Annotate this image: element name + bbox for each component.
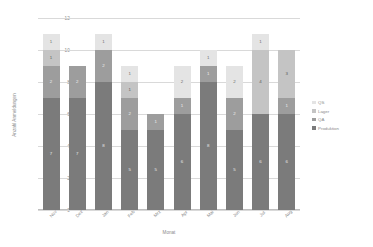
bar-segment[interactable]: 1 (95, 34, 112, 50)
bar-segment-value: 1 (259, 40, 261, 44)
bar-column[interactable]: 316 (278, 18, 295, 210)
bar-segment-value: 2 (233, 112, 235, 116)
bar-column[interactable]: 216 (174, 18, 191, 210)
bar-segment-value: 5 (233, 168, 235, 172)
bar-segment-value: 1 (286, 104, 288, 108)
bar-segment[interactable]: 7 (69, 98, 86, 210)
bar-column[interactable]: 128 (95, 18, 112, 210)
bar-segment-value: 1 (181, 104, 183, 108)
bar-column[interactable]: 225 (226, 18, 243, 210)
bar-segment[interactable]: 3 (278, 50, 295, 98)
legend-label: Lager (318, 109, 329, 114)
x-axis-labels: NovDezJanFebMrzAprMaiJunJulAug (38, 212, 300, 230)
bar-segment[interactable]: 2 (43, 66, 60, 98)
bar-segment-value: 8 (207, 144, 209, 148)
bar-segment-value: 1 (155, 120, 157, 124)
bar-segment[interactable]: 6 (252, 114, 269, 210)
bar-segment-value: 1 (207, 72, 209, 76)
bar-column[interactable]: 15 (147, 18, 164, 210)
bar-segment[interactable]: 6 (278, 114, 295, 210)
bar-segment[interactable]: 1 (43, 50, 60, 66)
bar-segment-value: 1 (128, 72, 130, 76)
bar-segment-value: 3 (286, 72, 288, 76)
legend-item[interactable]: QS (312, 100, 339, 105)
bar-segment-value: 1 (102, 40, 104, 44)
bar-segment-value: 1 (128, 88, 130, 92)
bar-segment[interactable]: 7 (43, 98, 60, 210)
bar-segment[interactable]: 2 (226, 98, 243, 130)
bar-segment-value: 2 (181, 80, 183, 84)
bar-segment[interactable]: 5 (147, 130, 164, 210)
bar-segment[interactable]: 2 (226, 66, 243, 98)
bar-segment-value: 1 (50, 56, 52, 60)
bar-segment[interactable]: 8 (95, 82, 112, 210)
legend-label: QS (318, 100, 324, 105)
bar-segment-value: 6 (259, 160, 261, 164)
bar-segment[interactable]: 1 (121, 66, 138, 82)
bar-segment[interactable]: 1 (43, 34, 60, 50)
legend-swatch-icon (312, 109, 316, 113)
bar-segment-value: 7 (76, 152, 78, 156)
legend-item[interactable]: Lager (312, 109, 339, 114)
bar-segment[interactable]: 1 (147, 114, 164, 130)
bar-segment-value: 8 (102, 144, 104, 148)
bar-segment[interactable]: 1 (278, 98, 295, 114)
bar-segment-value: 2 (233, 80, 235, 84)
bar-column[interactable]: 118 (200, 18, 217, 210)
x-axis-title: Monat (38, 230, 300, 235)
bar-column[interactable]: 1127 (43, 18, 60, 210)
bar-segment-value: 1 (207, 56, 209, 60)
bar-segment[interactable]: 1 (121, 82, 138, 98)
bar-group: 112727128112515216118225146316 (38, 18, 300, 210)
bar-segment-value: 2 (76, 80, 78, 84)
bar-segment[interactable]: 6 (174, 114, 191, 210)
legend-swatch-icon (312, 101, 316, 105)
bar-segment-value: 5 (155, 168, 157, 172)
bar-segment[interactable]: 2 (69, 66, 86, 98)
bar-segment-value: 6 (181, 160, 183, 164)
bar-segment-value: 2 (128, 112, 130, 116)
bar-segment-value: 2 (50, 80, 52, 84)
bar-segment-value: 6 (286, 160, 288, 164)
bar-column[interactable]: 146 (252, 18, 269, 210)
legend-item[interactable]: Produktion (312, 126, 339, 131)
plot-area: 112727128112515216118225146316 (38, 18, 300, 210)
legend-item[interactable]: QA (312, 117, 339, 122)
stacked-bar-chart: 024681012 Anzahl Anmeldungen 11272712811… (0, 0, 373, 247)
bar-segment-value: 1 (50, 40, 52, 44)
bar-segment-value: 4 (259, 80, 261, 84)
bar-segment-value: 2 (102, 64, 104, 68)
bar-segment[interactable]: 5 (121, 130, 138, 210)
bar-segment[interactable]: 4 (252, 50, 269, 114)
bar-column[interactable]: 27 (69, 18, 86, 210)
legend-swatch-icon (312, 126, 316, 130)
legend-swatch-icon (312, 118, 316, 122)
chart-legend: QSLagerQAProduktion (312, 100, 339, 131)
bar-segment[interactable]: 8 (200, 82, 217, 210)
legend-label: QA (318, 117, 324, 122)
bar-segment[interactable]: 2 (174, 66, 191, 98)
bar-column[interactable]: 1125 (121, 18, 138, 210)
bar-segment[interactable]: 1 (174, 98, 191, 114)
bar-segment-value: 7 (50, 152, 52, 156)
bar-segment-value: 5 (128, 168, 130, 172)
bar-segment[interactable]: 5 (226, 130, 243, 210)
bar-segment[interactable]: 2 (95, 50, 112, 82)
y-axis-title: Anzahl Anmeldungen (12, 93, 17, 136)
bar-segment[interactable]: 1 (200, 50, 217, 66)
bar-segment[interactable]: 2 (121, 98, 138, 130)
bar-segment[interactable]: 1 (200, 66, 217, 82)
legend-label: Produktion (318, 126, 339, 131)
bar-segment[interactable]: 1 (252, 34, 269, 50)
